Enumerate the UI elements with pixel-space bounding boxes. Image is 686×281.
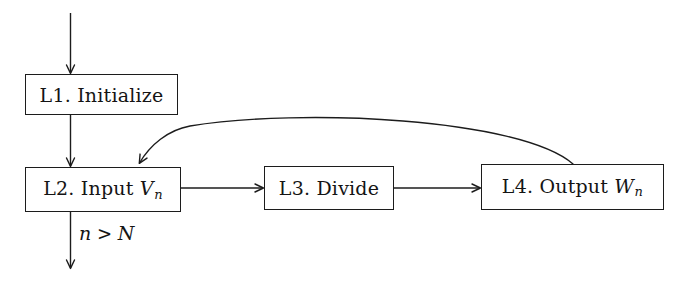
- node-l2-label: L2. Input Vn: [43, 177, 163, 202]
- flowchart-diagram: L1. Initialize L2. Input Vn L3. Divide L…: [0, 0, 686, 281]
- node-l3-label: L3. Divide: [279, 177, 379, 199]
- node-l4-label-text: L4. Output: [502, 175, 615, 197]
- node-l2-label-subscript: n: [154, 187, 163, 202]
- node-l2-label-text: L2. Input: [43, 177, 140, 199]
- node-l2-input[interactable]: L2. Input Vn: [25, 167, 181, 212]
- node-l4-label-subscript: n: [635, 184, 644, 199]
- node-l3-divide[interactable]: L3. Divide: [264, 166, 394, 210]
- edge-l4-to-l2-feedback: [140, 118, 574, 164]
- edge-label-exit-condition: n > N: [79, 222, 134, 244]
- node-l2-label-variable: V: [140, 177, 154, 199]
- node-l1-initialize[interactable]: L1. Initialize: [25, 74, 178, 115]
- edge-label-exit-N: N: [118, 222, 135, 244]
- edge-label-exit-operator: >: [91, 223, 118, 244]
- node-l4-output[interactable]: L4. Output Wn: [481, 164, 664, 210]
- node-l1-label: L1. Initialize: [40, 84, 164, 106]
- edge-label-exit-n: n: [79, 222, 91, 244]
- node-l4-label-variable: W: [614, 175, 634, 197]
- node-l4-label: L4. Output Wn: [502, 175, 643, 200]
